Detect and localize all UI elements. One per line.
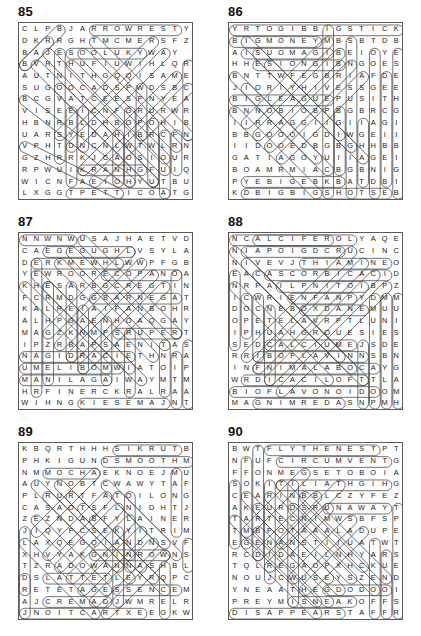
grid-cell: N: [229, 256, 241, 268]
grid-cell: B: [298, 23, 310, 35]
grid-cell: U: [379, 303, 391, 315]
grid-cell: A: [310, 350, 322, 362]
grid-cell: S: [146, 560, 158, 572]
grid-cell: A: [229, 46, 241, 58]
grid-cell: Q: [169, 58, 181, 70]
grid-cell: D: [88, 117, 100, 129]
grid-cell: E: [379, 327, 391, 339]
grid-cell: I: [310, 478, 322, 490]
grid-row: CLPBJARROWRESTY: [19, 23, 192, 35]
grid-cell: F: [65, 525, 77, 537]
grid-cell: I: [241, 46, 253, 58]
grid-cell: Q: [146, 315, 158, 327]
grid-cell: Y: [146, 478, 158, 490]
grid-cell: E: [134, 607, 146, 619]
grid-cell: A: [298, 46, 310, 58]
grid-cell: O: [344, 466, 356, 478]
grid-cell: P: [241, 327, 253, 339]
grid-cell: A: [111, 292, 123, 304]
grid-cell: A: [31, 537, 43, 549]
grid-cell: T: [287, 525, 299, 537]
grid-cell: G: [229, 152, 241, 164]
grid-row: YEWROORECOPANOA: [19, 268, 192, 280]
grid-cell: A: [77, 315, 89, 327]
grid-cell: T: [356, 175, 368, 187]
grid-cell: W: [123, 23, 135, 35]
grid-cell: T: [100, 572, 112, 584]
grid-cell: P: [241, 315, 253, 327]
grid-cell: I: [229, 327, 241, 339]
grid-cell: C: [298, 374, 310, 386]
grid-cell: I: [31, 397, 43, 409]
grid-cell: E: [367, 572, 379, 584]
grid-row: WRDICACILOFTTLA: [229, 374, 402, 386]
grid-cell: A: [367, 548, 379, 560]
grid-cell: I: [65, 70, 77, 82]
grid-cell: N: [123, 548, 135, 560]
grid-cell: V: [321, 82, 333, 94]
grid-cell: S: [180, 338, 192, 350]
grid-cell: U: [264, 46, 276, 58]
grid-cell: G: [134, 164, 146, 176]
grid-cell: E: [390, 82, 402, 94]
grid-cell: Y: [123, 525, 135, 537]
grid-cell: I: [264, 152, 276, 164]
grid-cell: G: [310, 58, 322, 70]
grid-row: PREYMISNEAKOFFS: [229, 595, 402, 607]
grid-cell: V: [344, 455, 356, 467]
grid-cell: J: [31, 595, 43, 607]
grid-cell: P: [390, 513, 402, 525]
grid-cell: N: [123, 560, 135, 572]
grid-cell: T: [298, 443, 310, 455]
grid-cell: E: [54, 584, 66, 596]
grid-cell: G: [321, 584, 333, 596]
grid-row: UARSYEDAHIBRCFN: [19, 128, 192, 140]
grid-cell: C: [100, 350, 112, 362]
grid-cell: Y: [42, 478, 54, 490]
grid-cell: T: [157, 338, 169, 350]
grid-cell: E: [169, 93, 181, 105]
grid-cell: B: [229, 93, 241, 105]
grid-cell: I: [88, 397, 100, 409]
grid-cell: B: [252, 525, 264, 537]
grid-cell: M: [169, 70, 181, 82]
grid-cell: N: [157, 268, 169, 280]
grid-cell: P: [367, 397, 379, 409]
grid-row: BAJESOOLUKYWAY: [19, 46, 192, 58]
grid-row: BIOFLAVONOIDOOM: [229, 385, 402, 397]
grid-cell: B: [333, 105, 345, 117]
grid-cell: L: [275, 385, 287, 397]
grid-cell: F: [241, 466, 253, 478]
grid-row: FCRMDGGBARNEGAT: [19, 292, 192, 304]
grid-cell: E: [390, 70, 402, 82]
grid-cell: A: [344, 525, 356, 537]
grid-cell: H: [252, 327, 264, 339]
grid-cell: Y: [241, 175, 253, 187]
grid-cell: W: [229, 374, 241, 386]
grid-cell: I: [100, 537, 112, 549]
grid-cell: S: [252, 46, 264, 58]
grid-cell: B: [77, 478, 89, 490]
grid-cell: U: [379, 560, 391, 572]
grid-cell: T: [42, 584, 54, 596]
grid-cell: A: [134, 374, 146, 386]
grid-row: IPZRBAPSAENITAS: [19, 338, 192, 350]
grid-cell: E: [123, 350, 135, 362]
grid-cell: T: [169, 443, 181, 455]
grid-cell: O: [298, 105, 310, 117]
grid-cell: E: [275, 303, 287, 315]
grid-cell: T: [54, 140, 66, 152]
grid-cell: N: [367, 164, 379, 176]
grid-cell: N: [146, 537, 158, 549]
grid-cell: I: [275, 82, 287, 94]
grid-cell: N: [169, 490, 181, 502]
grid-cell: T: [169, 23, 181, 35]
grid-cell: H: [31, 548, 43, 560]
grid-cell: A: [54, 560, 66, 572]
grid-row: BOAMRMIACBGBNIG: [229, 164, 402, 176]
grid-cell: O: [65, 478, 77, 490]
grid-cell: R: [54, 595, 66, 607]
grid-cell: F: [229, 466, 241, 478]
grid-cell: H: [333, 187, 345, 199]
grid-cell: K: [169, 607, 181, 619]
